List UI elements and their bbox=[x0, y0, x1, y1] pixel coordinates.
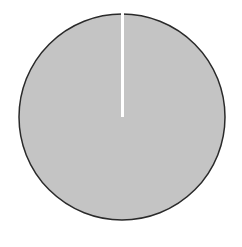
pie-chart-svg bbox=[0, 0, 242, 247]
pie-chart bbox=[0, 0, 242, 247]
